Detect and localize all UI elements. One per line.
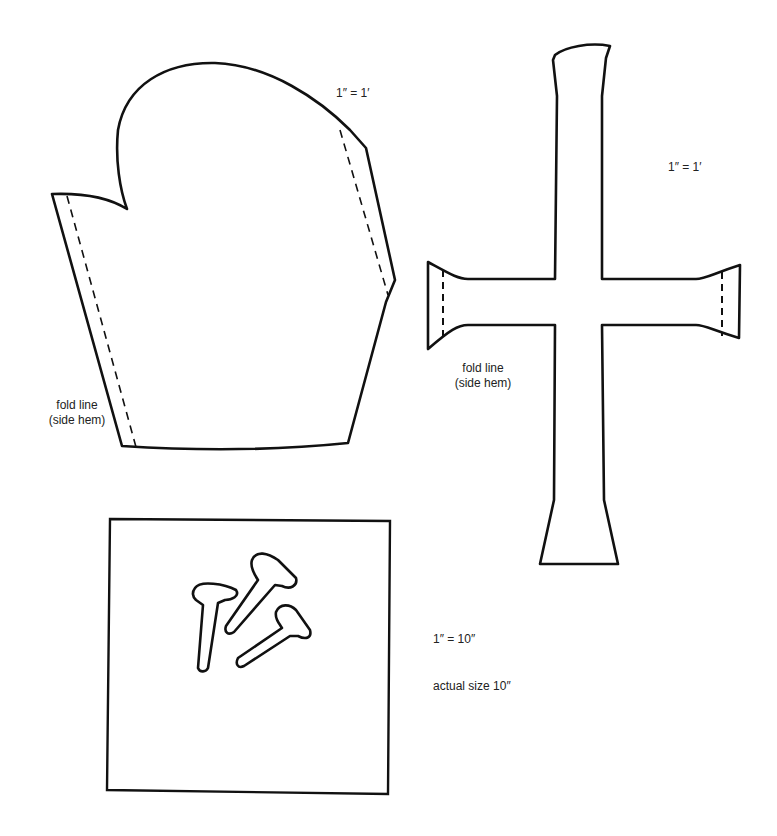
pattern-sheet: 1″ = 1′ fold line (side hem) 1″ = 1′ fol… <box>0 0 777 836</box>
nails-frame <box>107 519 390 794</box>
cross-pattern-piece <box>428 45 740 564</box>
cross-fold-lines <box>443 270 722 340</box>
robe-scale-label: 1″ = 1′ <box>336 86 370 101</box>
nails-scale-label: 1″ = 10″ <box>433 632 475 647</box>
nail-icon <box>193 554 311 672</box>
cross-fold-label-line2: (side hem) <box>440 376 526 391</box>
nails-size-label: actual size 10″ <box>433 679 511 694</box>
robe-pattern-piece <box>52 63 395 449</box>
robe-fold-label: fold line (side hem) <box>32 398 122 428</box>
robe-fold-label-line2: (side hem) <box>32 413 122 428</box>
cross-fold-label: fold line (side hem) <box>440 361 526 391</box>
cross-fold-label-line1: fold line <box>440 361 526 376</box>
cross-scale-label: 1″ = 1′ <box>668 160 702 175</box>
robe-fold-label-line1: fold line <box>32 398 122 413</box>
